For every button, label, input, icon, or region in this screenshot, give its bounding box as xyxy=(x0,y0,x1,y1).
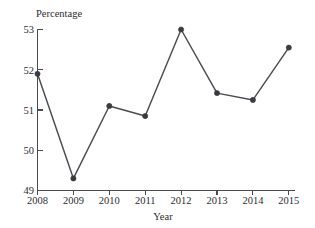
x-tick-label-2009: 2009 xyxy=(63,195,84,206)
y-tick-label-51: 51 xyxy=(24,105,35,116)
y-tick-label-52: 52 xyxy=(24,65,35,76)
chart-canvas: Percentage 53 52 51 50 49 2008 2009 2010… xyxy=(0,0,315,228)
series-marker-group xyxy=(35,27,292,181)
x-tick-label-2012: 2012 xyxy=(171,195,192,206)
y-tick-label-53: 53 xyxy=(24,24,35,35)
line-chart: Percentage 53 52 51 50 49 2008 2009 2010… xyxy=(0,0,315,228)
x-tick-label-2015: 2015 xyxy=(278,195,299,206)
data-point-2015 xyxy=(286,45,291,50)
x-axis-title: Year xyxy=(153,211,173,222)
x-tick-label-2011: 2011 xyxy=(135,195,156,206)
x-tick-label-2013: 2013 xyxy=(207,195,228,206)
data-point-2012 xyxy=(179,27,184,32)
y-tick-label-50: 50 xyxy=(24,145,35,156)
x-tick-label-2014: 2014 xyxy=(242,195,264,206)
data-point-2009 xyxy=(71,176,76,181)
data-point-2010 xyxy=(107,103,112,108)
data-point-2014 xyxy=(250,97,255,102)
series-line-percentage xyxy=(38,30,289,179)
y-axis-title: Percentage xyxy=(36,8,82,19)
x-tick-label-2008: 2008 xyxy=(27,195,48,206)
data-point-2008 xyxy=(35,71,40,76)
data-point-2011 xyxy=(143,113,148,118)
x-tick-label-2010: 2010 xyxy=(99,195,120,206)
data-point-2013 xyxy=(214,90,219,95)
